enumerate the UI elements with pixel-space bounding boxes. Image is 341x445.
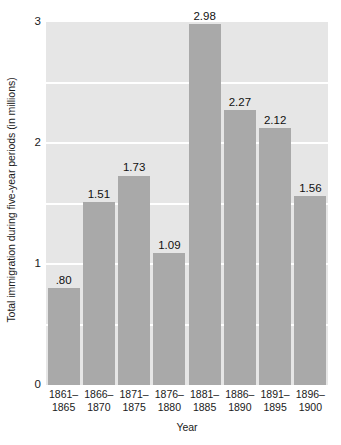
- bar-slot: 1.56: [293, 22, 328, 385]
- x-axis-tick-line: 1876–: [152, 388, 187, 401]
- x-axis-tick-line: 1886–: [222, 388, 257, 401]
- x-axis-tick-line: 1881–: [187, 388, 222, 401]
- x-axis-tick-1886–1890: 1886–1890: [222, 388, 257, 413]
- x-axis-tick-line: 1866–: [81, 388, 116, 401]
- x-axis-tick-1871–1875: 1871–1875: [117, 388, 152, 413]
- bar-value-label: 2.27: [222, 97, 257, 109]
- x-axis-tick-1866–1870: 1866–1870: [81, 388, 116, 413]
- x-axis-tick-labels: 1861–18651866–18701871–18751876–18801881…: [46, 388, 328, 420]
- y-axis-tick-0: 0: [35, 379, 41, 391]
- bar[interactable]: [189, 24, 221, 385]
- y-axis-title: Total immigration during five-year perio…: [0, 0, 22, 400]
- x-axis-tick-line: 1880: [152, 401, 187, 414]
- x-axis-tick-1891–1895: 1891–1895: [258, 388, 293, 413]
- x-axis-tick-line: 1871–: [117, 388, 152, 401]
- bar-slot: 2.98: [187, 22, 222, 385]
- bar-slot: 1.73: [117, 22, 152, 385]
- bar[interactable]: [153, 253, 185, 385]
- bar-series: .801.511.731.092.982.272.121.56: [46, 22, 328, 385]
- bar[interactable]: [294, 196, 326, 385]
- y-axis-tick-3: 3: [35, 16, 41, 28]
- x-axis-tick-line: 1891–: [258, 388, 293, 401]
- bar-value-label: .80: [46, 275, 81, 287]
- bar-slot: 2.12: [258, 22, 293, 385]
- bar-value-label: 2.12: [258, 115, 293, 127]
- bar-value-label: 1.56: [293, 183, 328, 195]
- x-axis-tick-line: 1870: [81, 401, 116, 414]
- x-axis-tick-line: 1896–: [293, 388, 328, 401]
- x-axis-tick-1896–1900: 1896–1900: [293, 388, 328, 413]
- x-axis-tick-line: 1885: [187, 401, 222, 414]
- bar-slot: .80: [46, 22, 81, 385]
- x-axis-title: Year: [46, 421, 328, 433]
- x-axis-tick-line: 1861–: [46, 388, 81, 401]
- x-axis-tick-1861–1865: 1861–1865: [46, 388, 81, 413]
- plot-area: .801.511.731.092.982.272.121.56: [46, 22, 328, 385]
- x-axis-tick-1876–1880: 1876–1880: [152, 388, 187, 413]
- x-axis-tick-1881–1885: 1881–1885: [187, 388, 222, 413]
- bar-value-label: 1.51: [81, 189, 116, 201]
- x-axis-tick-line: 1890: [222, 401, 257, 414]
- bar-slot: 1.09: [152, 22, 187, 385]
- x-axis-tick-line: 1895: [258, 401, 293, 414]
- y-axis-tick-labels: 0123: [22, 22, 44, 385]
- y-axis-tick-2: 2: [35, 137, 41, 149]
- bar-slot: 2.27: [222, 22, 257, 385]
- bar[interactable]: [259, 128, 291, 385]
- y-axis-title-text: Total immigration during five-year perio…: [5, 77, 17, 322]
- bar[interactable]: [118, 176, 150, 385]
- bar-value-label: 1.09: [152, 240, 187, 252]
- bar-value-label: 1.73: [117, 162, 152, 174]
- x-axis-tick-line: 1875: [117, 401, 152, 414]
- bar-value-label: 2.98: [187, 11, 222, 23]
- bar[interactable]: [224, 110, 256, 385]
- y-axis-tick-1: 1: [35, 258, 41, 270]
- bar[interactable]: [48, 288, 80, 385]
- x-axis-tick-line: 1900: [293, 401, 328, 414]
- bar-chart-figure: Total immigration during five-year perio…: [0, 0, 341, 445]
- bar-slot: 1.51: [81, 22, 116, 385]
- x-axis-tick-line: 1865: [46, 401, 81, 414]
- bar[interactable]: [83, 202, 115, 385]
